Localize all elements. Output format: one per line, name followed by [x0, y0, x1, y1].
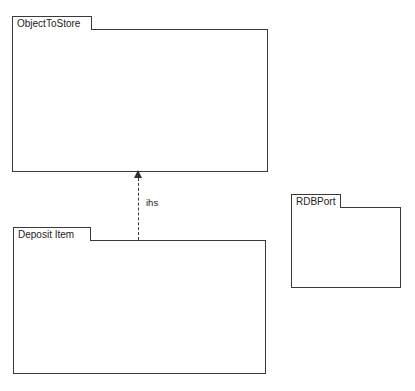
package-name-object-to-store: ObjectToStore [17, 19, 80, 29]
package-tab-deposit-item: Deposit Item [13, 227, 91, 241]
package-tab-rdb-port: RDBPort [291, 194, 341, 208]
relation-label-ihs: ihs [146, 198, 158, 208]
package-body-deposit-item [13, 240, 266, 374]
dependency-line-ihs [138, 178, 139, 240]
package-name-rdb-port: RDBPort [296, 197, 335, 207]
arrowhead-icon [134, 170, 142, 178]
package-body-object-to-store [12, 29, 268, 172]
package-name-deposit-item: Deposit Item [18, 230, 74, 240]
diagram-canvas: ObjectToStore Object ObjectState Persist… [0, 0, 415, 391]
package-tab-object-to-store: ObjectToStore [12, 16, 92, 30]
package-body-rdb-port [291, 207, 401, 288]
